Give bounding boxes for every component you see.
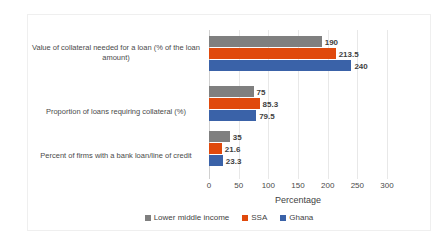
bar-ssa [209,98,260,109]
legend-swatch-icon [145,215,151,221]
bar-value-label: 240 [351,61,367,70]
bar-value-label: 190 [322,37,338,46]
bar-row: 35 [209,131,387,142]
x-tick-label: 250 [351,181,364,190]
x-tick-label: 300 [380,181,393,190]
x-tick-label: 0 [207,181,211,190]
bar-row: 21.6 [209,143,387,154]
bar-value-label: 23.3 [223,156,242,165]
bar-row: 240 [209,60,387,71]
bar-group: 190213.5240 [209,36,387,72]
bar-row: 79.5 [209,110,387,121]
bar-row: 190 [209,36,387,47]
bar-value-label: 21.6 [222,144,241,153]
bar-value-label: 75 [254,87,266,96]
bar-value-label: 213.5 [336,49,359,58]
bar-ghana [209,60,351,71]
category-label: Percent of firms with a bank loan/line o… [30,151,202,161]
bar-row: 85.3 [209,98,387,109]
bar-group: 3521.623.3 [209,131,387,167]
legend-label: Lower middle income [154,213,230,222]
x-tick-label: 200 [321,181,334,190]
x-axis-tick-labels: 050100150200250300 [209,181,387,193]
chart-container: 190213.52407585.379.53521.623.3 Value of… [27,14,431,231]
legend-label: Ghana [289,213,313,222]
bar-group: 7585.379.5 [209,86,387,122]
x-tick-label: 100 [262,181,275,190]
legend-item[interactable]: Ghana [280,213,313,222]
legend-swatch-icon [242,215,248,221]
bar-ssa [209,48,336,59]
x-axis-title: Percentage [209,195,387,205]
legend-swatch-icon [280,215,286,221]
legend-item[interactable]: Lower middle income [145,213,230,222]
legend-label: SSA [251,213,267,222]
bar-value-label: 85.3 [260,99,279,108]
gridline [387,30,388,179]
bar-value-label: 35 [230,132,242,141]
bar-row: 75 [209,86,387,97]
bar-row: 213.5 [209,48,387,59]
bar-value-label: 79.5 [256,111,275,120]
bar-lower-middle-income [209,131,230,142]
figure-caption [60,240,390,249]
legend-item[interactable]: SSA [242,213,267,222]
plot-area: 190213.52407585.379.53521.623.3 [209,30,387,179]
bar-lower-middle-income [209,36,322,47]
category-label: Value of collateral needed for a loan (%… [30,43,202,63]
bar-ssa [209,143,222,154]
bar-lower-middle-income [209,86,254,97]
bar-row: 23.3 [209,155,387,166]
bar-ghana [209,155,223,166]
bar-ghana [209,110,256,121]
x-tick-label: 50 [234,181,243,190]
category-label: Proportion of loans requiring collateral… [30,107,202,117]
x-tick-label: 150 [291,181,304,190]
chart-legend: Lower middle incomeSSAGhana [28,213,430,222]
